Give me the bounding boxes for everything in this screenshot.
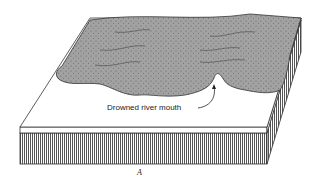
block-diagram	[0, 0, 318, 192]
front-face	[20, 127, 267, 164]
land-mass	[56, 14, 301, 96]
annotation-label: Drowned river mouth	[107, 103, 181, 112]
figure-label: A	[137, 168, 142, 177]
